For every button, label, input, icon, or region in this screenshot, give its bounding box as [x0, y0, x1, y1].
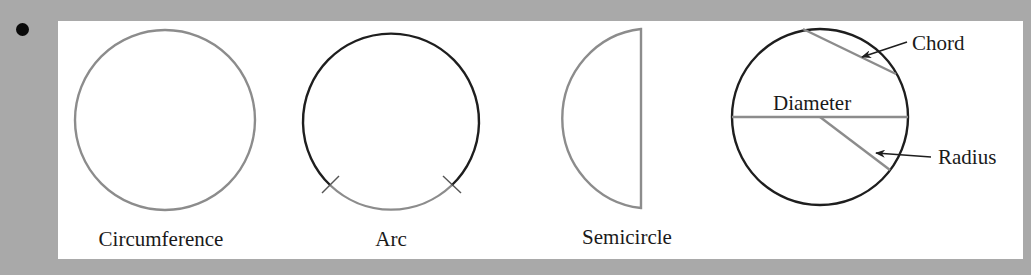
- circumference-figure: Circumference: [75, 30, 255, 251]
- semicircle-figure: Semicircle: [562, 29, 672, 249]
- minor-arc: [331, 186, 452, 210]
- chord-label: Chord: [912, 31, 965, 55]
- arc-figure: Arc: [303, 34, 479, 251]
- circumference-circle: [75, 30, 255, 210]
- chord-line: [803, 29, 896, 74]
- diameter-label: Diameter: [773, 91, 851, 115]
- semicircle-shape: [562, 29, 641, 208]
- circle-parts-figure: Chord Diameter Radius: [732, 29, 996, 205]
- radius-line: [820, 117, 890, 170]
- circumference-label: Circumference: [99, 227, 224, 251]
- circle-terms-diagram: Circumference Arc Semicircle Chord Diame…: [0, 0, 1031, 275]
- semicircle-label: Semicircle: [582, 225, 672, 249]
- major-arc: [303, 34, 479, 186]
- radius-arrow-icon: [876, 153, 931, 157]
- radius-label: Radius: [938, 145, 996, 169]
- arc-label: Arc: [375, 227, 406, 251]
